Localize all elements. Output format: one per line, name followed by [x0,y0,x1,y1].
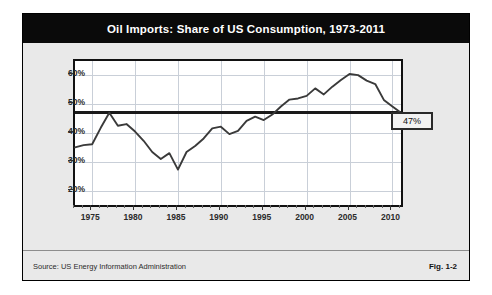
x-axis-tick-minor [245,205,246,208]
x-axis-tick-minor [356,205,357,208]
x-axis-tick-minor [107,205,108,208]
x-axis-tick-minor [193,205,194,208]
x-axis-tick-major [348,205,349,210]
x-axis-tick-label: 1995 [252,212,271,222]
x-axis-tick-label: 2005 [338,212,357,222]
x-axis-tick-major [219,205,220,210]
x-axis-tick-minor [227,205,228,208]
plot-area [73,59,403,207]
callout-47-percent: 47% [391,112,433,130]
x-axis-tick-major [305,205,306,210]
figure-footer: Source: US Energy Information Administra… [23,250,469,280]
x-axis-tick-minor [296,205,297,208]
x-axis-tick-minor [210,205,211,208]
x-axis-tick-minor [399,205,400,208]
y-axis-tick [68,102,73,103]
x-axis-tick-minor [236,205,237,208]
x-axis-tick-label: 1975 [81,212,100,222]
x-axis-tick-minor [82,205,83,208]
x-axis-tick-minor [313,205,314,208]
source-credit: Source: US Energy Information Administra… [33,261,186,270]
y-axis-tick [68,131,73,132]
callout-label: 47% [403,116,421,126]
x-axis-tick-label: 2010 [381,212,400,222]
x-axis-tick-label: 2000 [295,212,314,222]
x-axis-tick-major [262,205,263,210]
x-axis-tick-minor [202,205,203,208]
x-axis-tick-label: 1990 [209,212,228,222]
series-line-chart [75,61,401,205]
x-axis-tick-minor [365,205,366,208]
y-axis-tick [68,189,73,190]
x-axis-tick-label: 1980 [124,212,143,222]
x-axis-tick-minor [373,205,374,208]
x-axis-tick-minor [124,205,125,208]
x-axis-tick-minor [159,205,160,208]
x-axis-tick-minor [185,205,186,208]
x-axis-tick-major [390,205,391,210]
x-axis-tick-label: 1985 [166,212,185,222]
figure-title-band: Oil Imports: Share of US Consumption, 19… [23,14,469,43]
x-axis-tick-minor [142,205,143,208]
x-axis-tick-minor [73,205,74,208]
series-polyline [75,74,401,170]
x-axis-tick-minor [167,205,168,208]
x-axis-tick-minor [279,205,280,208]
x-axis-tick-major [90,205,91,210]
x-axis-tick-minor [287,205,288,208]
x-axis-tick-major [133,205,134,210]
x-axis-tick-minor [270,205,271,208]
figure-panel: Oil Imports: Share of US Consumption, 19… [22,13,470,281]
x-axis-tick-minor [99,205,100,208]
x-axis-tick-minor [253,205,254,208]
figure-number: Fig. 1-2 [429,261,457,270]
x-axis-tick-minor [150,205,151,208]
x-axis-tick-major [176,205,177,210]
x-axis-tick-minor [322,205,323,208]
x-axis-tick-minor [339,205,340,208]
chart-body: 19751980198519901995200020052010 47% 20%… [23,43,469,251]
page-title: Oil Imports: Share of US Consumption, 19… [107,23,385,35]
x-axis-tick-minor [382,205,383,208]
x-axis-tick-minor [330,205,331,208]
y-axis-tick [68,160,73,161]
y-axis-tick [68,73,73,74]
x-axis-tick-minor [116,205,117,208]
